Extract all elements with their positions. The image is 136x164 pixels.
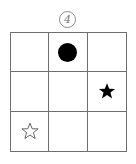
filled-circle-icon: [58, 43, 77, 62]
filled-star-icon: [98, 82, 116, 100]
grid-cell-r2-c2: [49, 72, 87, 111]
grid-cell-r1-c2: [49, 33, 87, 72]
grid-cell-r2-c1: [11, 72, 49, 111]
grid-cell-r1-c1: [11, 33, 49, 72]
grid-cell-r1-c3: [88, 33, 126, 72]
grid-cell-r2-c3: [88, 72, 126, 111]
outline-star-icon: [21, 122, 39, 140]
grid-cell-r3-c2: [49, 112, 87, 151]
figure-number-label: 4: [59, 11, 76, 28]
three-by-three-grid: [10, 32, 127, 152]
grid-cell-r3-c3: [88, 112, 126, 151]
grid-cell-r3-c1: [11, 112, 49, 151]
